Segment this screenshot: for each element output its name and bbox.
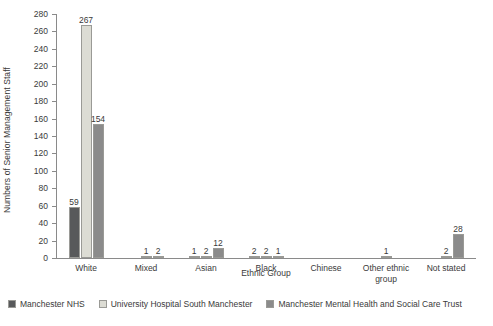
bar-value-label: 2 [252,246,257,256]
y-axis-tick: 260 [22,27,48,36]
bar[interactable]: 267 [81,25,92,258]
y-axis-tick: 220 [22,62,48,71]
legend-item[interactable]: Manchester NHS [8,299,85,309]
bar-value-label: 1 [384,246,389,256]
bar-value-label: 154 [91,114,105,124]
bar[interactable]: 1 [141,256,152,258]
y-axis-tick: 120 [22,149,48,158]
bar-group: 1212Asian [176,14,236,259]
legend-swatch [8,300,16,308]
legend-item[interactable]: University Hospital South Manchester [99,299,253,309]
bar-group: 228Not stated [416,14,476,259]
bar[interactable]: 2 [261,256,272,258]
y-axis-tick: 60 [22,202,48,211]
bar-value-label: 2 [156,246,161,256]
legend-item[interactable]: Manchester Mental Health and Social Care… [266,299,461,309]
bar-value-label: 12 [213,238,222,248]
bars: 1212 [176,14,236,258]
legend-label: University Hospital South Manchester [111,299,253,309]
legend-swatch [266,300,274,308]
bars [296,14,356,258]
bar[interactable]: 1 [189,256,200,258]
bar[interactable]: 2 [441,256,452,258]
bars: 1 [356,14,416,258]
y-axis-tick: 240 [22,45,48,54]
bar-value-label: 2 [444,246,449,256]
bar-value-label: 59 [69,197,78,207]
bar-value-label: 2 [264,246,269,256]
bar[interactable]: 2 [249,256,260,258]
bar[interactable]: 2 [201,256,212,258]
bars: 221 [236,14,296,258]
y-axis-tick: 160 [22,115,48,124]
bar[interactable]: 28 [453,234,464,258]
legend-swatch [99,300,107,308]
bar[interactable]: 59 [69,207,80,258]
y-axis-tick: 100 [22,167,48,176]
y-axis-tick: 280 [22,10,48,19]
bar[interactable]: 2 [153,256,164,258]
bar-group: 12Mixed [116,14,176,259]
bar-group: 221Black [236,14,296,259]
bar-value-label: 1 [276,246,281,256]
bar-value-label: 1 [192,246,197,256]
plot-area: 0204060801001201401601802002202402602805… [56,14,476,259]
bars: 228 [416,14,476,258]
y-axis-title-text: Numbers of Senior Management Staff [2,0,12,280]
y-axis-tick: 0 [22,254,48,263]
legend: Manchester NHSUniversity Hospital South … [8,297,488,311]
y-axis-tick: 20 [22,237,48,246]
bar[interactable]: 12 [213,248,224,258]
bar-group: 59267154White [56,14,116,259]
bar-value-label: 1 [144,246,149,256]
y-axis-tick: 80 [22,184,48,193]
bar[interactable]: 154 [93,124,104,258]
y-axis-tick: 180 [22,97,48,106]
x-axis-title: Ethnic Group [56,268,476,278]
bar-group: 1Other ethnicgroup [356,14,416,259]
bars: 12 [116,14,176,258]
bar[interactable]: 1 [273,256,284,258]
bar-value-label: 2 [204,246,209,256]
bar[interactable]: 1 [381,256,392,258]
y-axis-tick: 200 [22,80,48,89]
legend-label: Manchester NHS [20,299,85,309]
bar-group: Chinese [296,14,356,259]
y-axis-tick: 40 [22,219,48,228]
bar-value-label: 28 [453,224,462,234]
bar-value-label: 267 [79,15,93,25]
bar-chart: Numbers of Senior Management Staff 02040… [0,0,493,326]
legend-label: Manchester Mental Health and Social Care… [278,299,461,309]
y-axis-tick: 140 [22,132,48,141]
bars: 59267154 [56,14,116,258]
